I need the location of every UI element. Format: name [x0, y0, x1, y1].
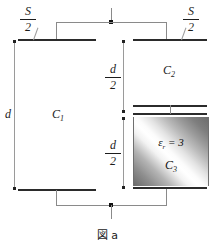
series-link-wire: [170, 105, 171, 114]
capacitor-c1-symbol: C: [52, 107, 60, 121]
plate-c1-bottom: [18, 189, 96, 191]
capacitor-c3-symbol: C: [165, 158, 173, 172]
dielectric-block: εr = 3 C3: [133, 117, 209, 186]
area-label-right: S 2: [183, 5, 199, 33]
gap-label-upper: d 2: [105, 63, 121, 91]
capacitor-c2-subscript: 2: [171, 70, 175, 79]
bottom-left-branch-wire: [56, 190, 57, 205]
capacitor-c1-label: C1: [52, 108, 64, 123]
top-left-branch-wire: [56, 22, 57, 40]
bottom-right-branch-wire: [166, 189, 167, 205]
capacitor-figure: S 2 S 2 d C1 d 2 C2 εr = 3 C3: [0, 0, 215, 244]
permittivity-label: εr = 3: [134, 137, 208, 151]
dimension-lower-bottom-tick: [122, 186, 125, 189]
capacitor-c2-label: C2: [163, 64, 175, 79]
capacitor-c1-subscript: 1: [60, 114, 64, 123]
gap-label-upper-numerator: d: [105, 63, 121, 76]
dimension-upper-bottom-tick: [122, 110, 125, 113]
dimension-upper-top-tick: [122, 40, 125, 43]
capacitor-c3-label: C3: [134, 159, 208, 174]
capacitor-c2-symbol: C: [163, 63, 171, 77]
dimension-lower-top-tick: [122, 117, 125, 120]
gap-label-lower-numerator: d: [105, 139, 121, 152]
permittivity-subscript: r: [163, 143, 166, 151]
area-label-right-denominator: 2: [183, 21, 199, 34]
top-right-branch-wire: [166, 22, 167, 40]
area-label-right-numerator: S: [183, 5, 199, 18]
area-label-left-denominator: 2: [20, 21, 36, 34]
plate-c2-top: [133, 39, 207, 41]
plate-c3-bottom: [133, 187, 207, 189]
gap-label-upper-denominator: 2: [105, 79, 121, 92]
dimension-line-d-half-lower: [123, 118, 124, 188]
area-label-left-numerator: S: [20, 5, 36, 18]
gap-label-lower-denominator: 2: [105, 155, 121, 168]
dimension-d-top-tick: [13, 40, 16, 43]
top-rail-wire: [56, 22, 167, 23]
dimension-line-d: [14, 41, 15, 189]
gap-label-lower: d 2: [105, 139, 121, 167]
plate-c1-top: [18, 39, 96, 41]
figure-caption: 図 a: [0, 226, 215, 242]
bottom-terminal-lead: [111, 205, 112, 219]
dimension-d-label: d: [5, 108, 11, 120]
permittivity-value: = 3: [168, 136, 184, 148]
dimension-d-bottom-tick: [13, 187, 16, 190]
capacitor-c3-subscript: 3: [173, 165, 177, 174]
area-label-left: S 2: [20, 5, 36, 33]
dimension-line-d-half-upper: [123, 41, 124, 112]
